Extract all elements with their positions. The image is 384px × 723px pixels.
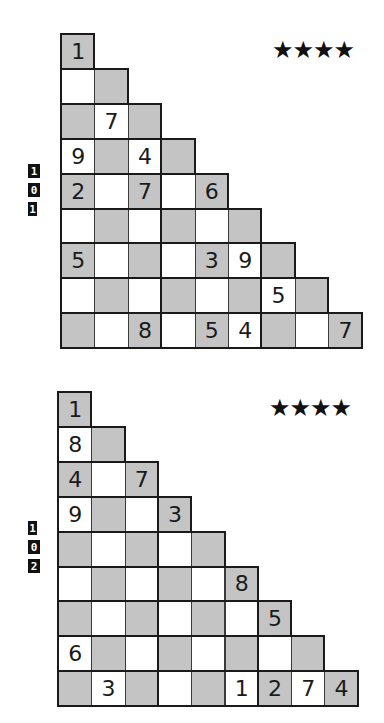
grid-cell[interactable]: 6	[58, 636, 92, 672]
grid-cell[interactable]	[125, 671, 159, 707]
box-border-line	[57, 461, 159, 463]
grid-cell[interactable]	[58, 601, 92, 637]
grid-cell[interactable]: 1	[58, 392, 92, 428]
grid-cell[interactable]	[125, 532, 159, 568]
box-border-line	[90, 391, 92, 428]
grid-cell[interactable]	[191, 671, 225, 707]
grid-cell[interactable]	[58, 567, 92, 603]
puzzle-number-digit: 2	[28, 559, 40, 573]
grid-cell[interactable]	[158, 532, 192, 568]
box-border-line	[57, 635, 325, 637]
box-border-line	[124, 426, 126, 463]
grid-cell[interactable]	[91, 427, 125, 463]
grid-cell[interactable]	[91, 532, 125, 568]
grid-cell[interactable]	[191, 532, 225, 568]
grid-cell[interactable]	[291, 636, 325, 672]
grid-cell[interactable]: 5	[258, 601, 292, 637]
box-border-line	[290, 600, 292, 637]
grid-cell[interactable]	[191, 601, 225, 637]
grid-cell[interactable]	[91, 497, 125, 533]
box-border-line	[257, 566, 259, 603]
grid-cell[interactable]	[158, 671, 192, 707]
grid-cell[interactable]	[125, 636, 159, 672]
grid-cell[interactable]: 4	[58, 462, 92, 498]
grid-cell[interactable]: 3	[158, 497, 192, 533]
grid-cell[interactable]: 3	[91, 671, 125, 707]
grid-cell[interactable]	[125, 497, 159, 533]
box-border-line	[57, 670, 359, 672]
grid-cell[interactable]	[158, 601, 192, 637]
grid-cell[interactable]	[58, 671, 92, 707]
grid-cell[interactable]: 7	[291, 671, 325, 707]
puzzle-102: 1 0 2 ★★★★ 18479385631274	[0, 0, 384, 723]
grid-cell[interactable]: 2	[258, 671, 292, 707]
box-border-line	[157, 461, 159, 498]
grid-cell[interactable]: 8	[225, 567, 259, 603]
grid-cell[interactable]	[91, 462, 125, 498]
grid-cell[interactable]	[158, 567, 192, 603]
box-border-line	[357, 670, 359, 707]
grid-cell[interactable]	[158, 636, 192, 672]
grid-cell[interactable]	[225, 636, 259, 672]
grid-cell[interactable]	[191, 567, 225, 603]
difficulty-stars: ★★★★	[269, 396, 351, 420]
box-border-line	[190, 496, 192, 533]
box-border-line	[57, 391, 92, 393]
box-border-line	[57, 496, 192, 498]
grid-cell[interactable]: 1	[225, 671, 259, 707]
grid-cell[interactable]	[258, 636, 292, 672]
box-border-line	[224, 531, 226, 568]
box-border-line	[57, 392, 59, 707]
box-border-line	[323, 635, 325, 672]
grid-cell[interactable]	[91, 567, 125, 603]
grid-cell[interactable]	[58, 532, 92, 568]
grid-cell[interactable]	[125, 567, 159, 603]
box-border-line	[57, 426, 126, 428]
grid-cell[interactable]	[225, 601, 259, 637]
grid-cell[interactable]	[191, 636, 225, 672]
puzzle-number-digit: 1	[28, 521, 37, 535]
box-border-line	[57, 705, 359, 707]
puzzle-number-digit: 0	[28, 540, 40, 554]
grid-cell[interactable]	[91, 601, 125, 637]
grid-cell[interactable]: 4	[324, 671, 358, 707]
box-border-line	[57, 531, 226, 533]
grid-cell[interactable]	[91, 636, 125, 672]
grid-cell[interactable]: 9	[58, 497, 92, 533]
grid-cell[interactable]: 8	[58, 427, 92, 463]
grid-cell[interactable]	[125, 601, 159, 637]
box-border-line	[257, 600, 259, 707]
grid-cell[interactable]: 7	[125, 462, 159, 498]
